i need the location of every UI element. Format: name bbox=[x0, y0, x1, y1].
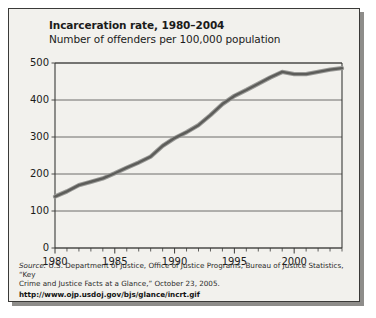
y-axis-tick-label: 400 bbox=[15, 94, 49, 105]
gridlines bbox=[55, 63, 342, 248]
x-axis-ticks bbox=[52, 63, 343, 254]
chart-card: Incarceration rate, 1980–2004 Number of … bbox=[8, 8, 360, 302]
y-axis-tick-label: 500 bbox=[15, 57, 49, 68]
source-line-2: Crime and Justice Facts at a Glance,” Oc… bbox=[19, 279, 353, 288]
axes bbox=[55, 63, 342, 248]
source-label: Source: bbox=[19, 261, 46, 270]
source-line-1: Source: U.S. Department of Justice, Offi… bbox=[19, 261, 353, 279]
y-axis-tick-label: 300 bbox=[15, 131, 49, 142]
plot-area: 0100200300400500 19801985199019952000 bbox=[9, 9, 361, 303]
chart-page: Incarceration rate, 1980–2004 Number of … bbox=[0, 0, 376, 318]
y-axis-tick-label: 200 bbox=[15, 168, 49, 179]
y-axis-tick-label: 100 bbox=[15, 205, 49, 216]
source-url[interactable]: http://www.ojp.usdoj.gov/bjs/glance/incr… bbox=[19, 290, 353, 300]
source-line-1-text: U.S. Department of Justice, Office of Ju… bbox=[19, 261, 344, 279]
source-note: Source: U.S. Department of Justice, Offi… bbox=[19, 261, 353, 299]
chart-inner: Incarceration rate, 1980–2004 Number of … bbox=[9, 9, 359, 301]
y-axis-tick-label: 0 bbox=[15, 242, 49, 253]
data-line-series bbox=[55, 68, 342, 196]
